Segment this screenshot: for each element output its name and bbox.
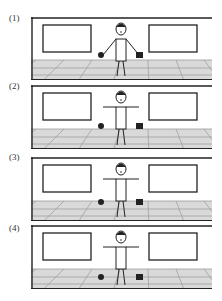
panel-1 [31, 17, 212, 80]
panel-3 [31, 157, 212, 221]
window-left [43, 233, 91, 260]
window-right [149, 233, 197, 260]
panel-label: (2) [9, 81, 20, 91]
ball [98, 123, 104, 129]
box [136, 199, 143, 205]
panel-4 [31, 225, 212, 289]
window-right [149, 93, 197, 120]
window-left [43, 93, 91, 120]
ball [98, 274, 104, 280]
panel-label: (1) [9, 13, 20, 23]
floor [31, 60, 212, 80]
box [136, 123, 143, 129]
ball [98, 199, 104, 205]
torso [116, 107, 126, 129]
box [136, 274, 143, 280]
torso [116, 247, 126, 269]
window-left [43, 25, 91, 52]
floor [31, 201, 212, 221]
torso [116, 39, 126, 61]
torso [116, 179, 126, 201]
panel-label: (3) [9, 152, 20, 162]
floor [31, 269, 212, 289]
floor [31, 129, 212, 149]
window-right [149, 25, 197, 52]
box [136, 52, 143, 58]
window-right [149, 165, 197, 192]
window-left [43, 165, 91, 192]
ball [98, 52, 104, 58]
panel-label: (4) [9, 223, 20, 233]
panel-2 [31, 85, 212, 149]
